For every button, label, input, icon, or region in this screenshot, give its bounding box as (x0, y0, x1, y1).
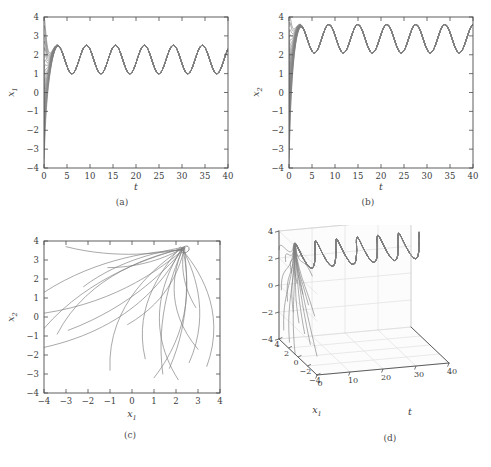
svg-text:0: 0 (129, 396, 134, 406)
svg-text:−4: −4 (38, 396, 51, 406)
panel-b-yaxis-label-sub: 2 (256, 87, 264, 92)
svg-text:x1: x1 (312, 404, 322, 418)
panel-b-curves (289, 14, 473, 168)
svg-text:3: 3 (279, 31, 284, 41)
svg-text:4: 4 (279, 12, 284, 22)
panel-c-curves (44, 245, 214, 380)
figure-panel-grid: 0510152025303540 −4−3−2−101234 t x1 (a) … (0, 0, 491, 467)
panel-a-plot: 0510152025303540 −4−3−2−101234 t x1 (0, 0, 245, 200)
svg-text:4: 4 (34, 236, 39, 246)
svg-text:25: 25 (399, 171, 410, 181)
svg-text:−3: −3 (26, 144, 39, 154)
svg-text:−3: −3 (271, 144, 284, 154)
svg-text:2: 2 (279, 50, 284, 60)
svg-text:−2: −2 (271, 125, 284, 135)
svg-text:−2: −2 (261, 308, 273, 317)
panel-c-xtick-labels: −4−3−2−101234 (38, 396, 223, 406)
svg-text:40: 40 (223, 171, 234, 181)
panel-d-plot: −4−2024420−2−4010203040 x2 x1 t (245, 225, 491, 440)
svg-text:2: 2 (34, 50, 39, 60)
svg-text:−3: −3 (26, 369, 39, 379)
svg-text:20: 20 (381, 373, 391, 382)
panel-c-frame (44, 241, 220, 393)
svg-text:−3: −3 (60, 396, 73, 406)
svg-text:5: 5 (64, 171, 69, 181)
svg-text:1: 1 (34, 293, 39, 303)
svg-text:1: 1 (151, 396, 156, 406)
panel-c-xaxis-label: x1 (127, 408, 137, 422)
svg-text:−4: −4 (26, 163, 39, 173)
svg-text:30: 30 (422, 171, 433, 181)
panel-b-plot: 0510152025303540 −4−3−2−101234 t x2 (245, 0, 491, 200)
panel-c-phase-portrait: −4−3−2−101234 −4−3−2−101234 x1 x2 (c) (0, 225, 245, 467)
panel-b-xaxis-label: t (379, 181, 383, 192)
svg-text:−1: −1 (26, 106, 39, 116)
svg-text:30: 30 (414, 370, 424, 379)
svg-text:x1: x1 (5, 87, 19, 97)
svg-text:5: 5 (309, 171, 314, 181)
svg-text:35: 35 (445, 171, 456, 181)
svg-text:0: 0 (286, 171, 291, 181)
svg-text:0: 0 (268, 281, 273, 290)
svg-text:4: 4 (217, 396, 222, 406)
svg-text:−2: −2 (26, 350, 39, 360)
svg-text:2: 2 (284, 349, 289, 358)
svg-text:4: 4 (268, 227, 273, 236)
svg-text:0: 0 (34, 88, 39, 98)
svg-text:−1: −1 (271, 106, 284, 116)
svg-text:−2: −2 (26, 125, 39, 135)
svg-text:2: 2 (173, 396, 178, 406)
panel-a-xaxis-label: t (134, 181, 138, 192)
svg-text:4: 4 (34, 12, 39, 22)
svg-text:4: 4 (274, 340, 279, 349)
svg-text:x1: x1 (127, 408, 137, 422)
svg-text:10: 10 (330, 171, 341, 181)
panel-a-yaxis-label: x1 (5, 87, 19, 97)
svg-text:3: 3 (195, 396, 200, 406)
svg-text:−2: −2 (300, 367, 312, 376)
panel-b-yaxis-label: x2 (250, 87, 264, 97)
svg-text:x2: x2 (250, 87, 264, 97)
panel-c-plot: −4−3−2−101234 −4−3−2−101234 x1 x2 (0, 225, 245, 440)
panel-d-yaxis-label: t (408, 406, 412, 417)
panel-c-xaxis-label-sub: 1 (133, 414, 137, 422)
panel-b-time-series-x2: 0510152025303540 −4−3−2−101234 t x2 (b) (245, 0, 491, 220)
panel-a-curves (44, 17, 228, 168)
svg-text:10: 10 (348, 376, 358, 385)
panel-b-xtick-labels: 0510152025303540 (286, 171, 478, 181)
svg-text:0: 0 (34, 312, 39, 322)
svg-text:1: 1 (34, 69, 39, 79)
svg-text:1: 1 (279, 69, 284, 79)
svg-text:−4: −4 (271, 163, 284, 173)
svg-text:10: 10 (85, 171, 96, 181)
panel-c-ytick-labels: −4−3−2−101234 (26, 236, 39, 398)
svg-text:2: 2 (268, 254, 273, 263)
svg-text:−1: −1 (26, 331, 39, 341)
panel-c-yaxis-label: x2 (5, 312, 19, 322)
svg-text:20: 20 (131, 171, 142, 181)
panel-c-caption: (c) (110, 430, 150, 440)
panel-c-yaxis-label-sub: 2 (11, 312, 19, 317)
panel-b-ytick-labels: −4−3−2−101234 (271, 12, 284, 173)
svg-text:x2: x2 (5, 312, 19, 322)
panel-c-ticks (44, 241, 220, 393)
panel-d-xaxis-label-sub: 1 (318, 410, 322, 418)
svg-text:0: 0 (293, 358, 298, 367)
svg-text:15: 15 (353, 171, 364, 181)
svg-text:25: 25 (154, 171, 165, 181)
svg-text:30: 30 (177, 171, 188, 181)
panel-a-time-series-x1: 0510152025303540 −4−3−2−101234 t x1 (a) (0, 0, 245, 220)
panel-a-frame (44, 17, 228, 168)
panel-d-caption: (d) (370, 433, 410, 443)
panel-b-ticks (289, 17, 473, 168)
panel-a-xtick-labels: 0510152025303540 (41, 171, 233, 181)
panel-a-yaxis-label-sub: 1 (11, 87, 19, 91)
svg-text:−1: −1 (104, 396, 117, 406)
svg-text:0: 0 (41, 171, 46, 181)
svg-text:2: 2 (34, 274, 39, 284)
svg-text:40: 40 (468, 171, 479, 181)
svg-text:40: 40 (447, 367, 457, 376)
svg-text:−4: −4 (261, 335, 273, 344)
panel-b-caption: (b) (348, 197, 388, 207)
svg-text:20: 20 (376, 171, 387, 181)
